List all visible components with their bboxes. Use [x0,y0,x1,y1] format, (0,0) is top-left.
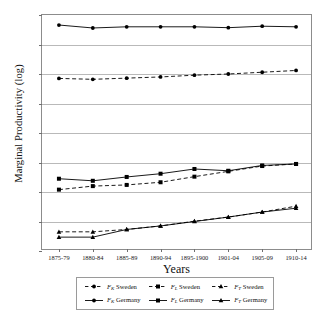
data-point-marker [125,175,129,179]
series-fk-sweden [57,69,298,82]
plot-area: 543210-1-2-3 1875-791880-841885-891890-9… [41,14,312,250]
legend-item: FT Germany [207,296,270,305]
data-point-marker [156,298,160,302]
data-point-marker [91,184,95,188]
data-point-marker [294,162,298,166]
data-point-marker [92,285,96,289]
data-point-marker [193,73,197,77]
legend-item-label: FT Sweden [234,283,263,291]
x-tick-label: 1905-09 [252,254,273,261]
x-tick-label: 1890-94 [150,254,171,261]
legend-item-label: FK Sweden [107,283,137,291]
data-point-marker [92,298,96,302]
data-point-marker [57,188,61,192]
x-tick-label: 1885-89 [116,254,137,261]
legend-item-label: FL Germany [171,296,204,304]
data-point-marker [260,70,264,74]
data-point-marker [57,23,61,27]
legend-symbol-icon [84,282,104,291]
legend-symbol-icon [148,282,168,291]
data-point-marker [192,167,196,171]
chart-figure: Marginal Productivity (log) 543210-1-2-3… [0,0,326,320]
data-point-marker [192,175,196,179]
legend-symbol-icon [211,296,231,305]
data-point-marker [57,177,61,181]
series-line [59,206,296,232]
data-point-marker [57,77,61,81]
x-tick-label: 1901-04 [218,254,239,261]
legend-item-label: FT Germany [234,296,267,304]
data-point-marker [159,180,163,184]
x-axis-title: Years [41,262,312,277]
data-point-marker [226,26,230,30]
data-point-marker [260,24,264,28]
legend-symbol-icon [211,282,231,291]
data-point-marker [159,25,163,29]
legend-item-label: FL Sweden [171,283,200,291]
legend-symbol-icon [84,296,104,305]
x-tick-label: 1875-79 [48,254,69,261]
y-tick-mark [39,251,42,252]
data-point-marker [294,25,298,29]
series-fk-germany [57,23,298,30]
series-ft-germany [57,206,299,239]
x-tick-label: 1880-84 [82,254,103,261]
x-tick-label: 1895-1900 [181,254,209,261]
data-point-marker [260,163,264,167]
data-point-marker [91,26,95,30]
data-point-marker [226,169,230,173]
data-point-marker [125,76,129,80]
y-axis-title: Marginal Productivity (log) [13,44,24,204]
data-point-marker [159,75,163,79]
data-point-marker [125,183,129,187]
data-point-marker [91,77,95,81]
legend-item: FL Sweden [144,282,207,291]
legend-item: FK Germany [80,296,143,305]
data-point-marker [91,179,95,183]
data-point-marker [125,25,129,29]
legend-item: FT Sweden [207,282,270,291]
data-point-marker [226,72,230,76]
legend-item: FK Sweden [80,282,143,291]
x-tick-label: 1910-14 [285,254,306,261]
data-point-marker [294,69,298,73]
data-point-marker [159,172,163,176]
data-point-marker [156,285,160,289]
series-ft-sweden [57,204,299,234]
data-point-marker [193,25,197,29]
legend-item-label: FK Germany [107,296,141,304]
legend-item: FL Germany [144,296,207,305]
legend-symbol-icon [148,296,168,305]
data-series-layer [42,15,313,251]
chart-legend: FK SwedenFL SwedenFT SwedenFK GermanyFL … [76,277,274,310]
